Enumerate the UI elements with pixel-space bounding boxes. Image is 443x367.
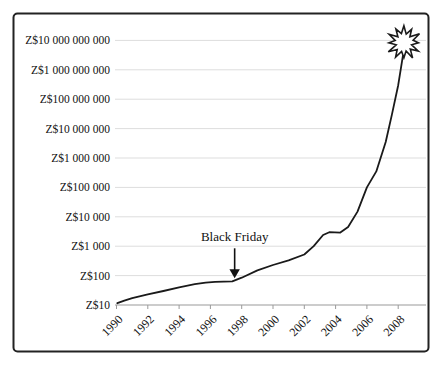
chart-svg: Z$10Z$100Z$1 000Z$10 000Z$100 000Z$1 000… [0,0,443,367]
y-axis-tick-label: Z$100 000 000 [40,93,111,105]
y-axis-tick-label: Z$1 000 000 000 [31,64,110,76]
y-axis-tick-label: Z$10 [86,299,111,311]
y-axis-tick-label: Z$1 000 [71,240,110,252]
chart-page: Z$10Z$100Z$1 000Z$10 000Z$100 000Z$1 000… [0,0,443,367]
y-axis-tick-label: Z$100 000 [60,181,110,193]
annotation-label: Black Friday [201,229,269,244]
y-axis-tick-label: Z$10 000 [66,211,111,223]
y-axis-tick-label: Z$10 000 000 [45,123,110,135]
y-axis-tick-label: Z$10 000 000 000 [25,34,110,46]
y-axis-tick-label: Z$1 000 000 [51,152,110,164]
y-axis-tick-label: Z$100 [80,270,110,282]
